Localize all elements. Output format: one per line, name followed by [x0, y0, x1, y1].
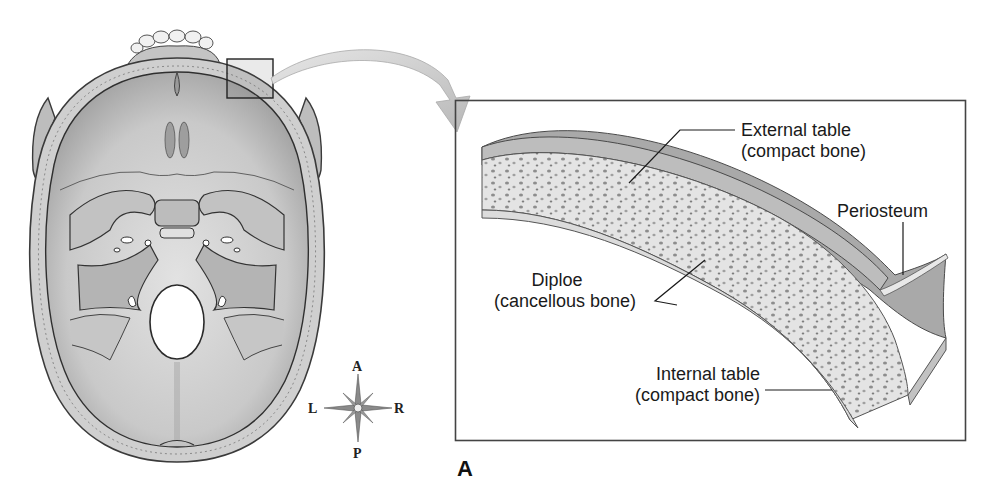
label-diploe-line1: Diploe — [466, 270, 636, 291]
compass-right-label: R — [394, 401, 404, 417]
compass-anterior-label: A — [352, 359, 362, 375]
label-external-table: External table (compact bone) — [741, 120, 866, 162]
label-external-table-line2: (compact bone) — [741, 141, 866, 162]
label-periosteum-line1: Periosteum — [837, 201, 928, 222]
compass-posterior-label: P — [353, 446, 362, 462]
panel-letter: A — [457, 456, 473, 482]
label-diploe: Diploe (cancellous bone) — [466, 270, 636, 312]
label-internal-table-line2: (compact bone) — [610, 385, 760, 406]
label-internal-table-line1: Internal table — [610, 364, 760, 385]
inset-highlight-square — [227, 59, 273, 98]
skull-cranial-floor-illustration — [0, 0, 991, 499]
compass-rose-icon — [324, 374, 392, 442]
label-diploe-line2: (cancellous bone) — [466, 291, 636, 312]
foramen-magnum — [150, 285, 204, 359]
compass-left-label: L — [308, 401, 317, 417]
label-internal-table: Internal table (compact bone) — [610, 364, 760, 406]
label-external-table-line1: External table — [741, 120, 866, 141]
label-periosteum: Periosteum — [837, 201, 928, 222]
